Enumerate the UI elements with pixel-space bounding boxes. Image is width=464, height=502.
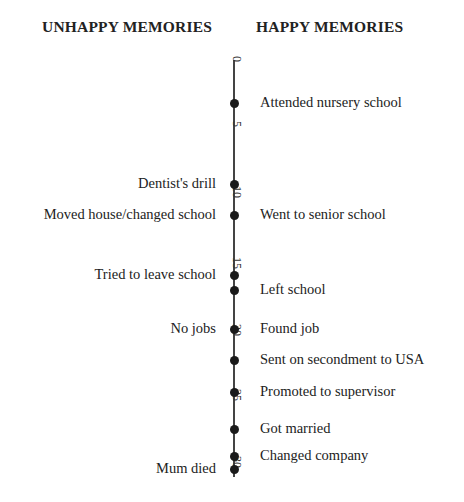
- happy-memory-label: Found job: [260, 320, 319, 336]
- unhappy-memory-label: Moved house/changed school: [44, 206, 216, 222]
- event-marker-dot: [230, 452, 239, 461]
- event-marker-dot: [230, 388, 239, 397]
- event-marker-dot: [230, 356, 239, 365]
- event-marker-dot: [230, 211, 239, 220]
- unhappy-memory-label: Mum died: [156, 460, 216, 476]
- happy-memory-label: Promoted to supervisor: [260, 383, 395, 399]
- happy-memories-heading: HAPPY MEMORIES: [256, 18, 403, 36]
- happy-memory-label: Went to senior school: [260, 206, 386, 222]
- event-marker-dot: [230, 99, 239, 108]
- happy-memory-label: Changed company: [260, 447, 368, 463]
- unhappy-memory-label: No jobs: [170, 320, 216, 336]
- unhappy-memory-label: Dentist's drill: [138, 175, 216, 191]
- age-tick-label: 15: [229, 257, 244, 269]
- unhappy-memories-heading: UNHAPPY MEMORIES: [42, 18, 212, 36]
- event-marker-dot: [230, 180, 239, 189]
- happy-memory-label: Attended nursery school: [260, 94, 402, 110]
- age-tick-label: 5: [229, 121, 244, 127]
- happy-memory-label: Got married: [260, 420, 330, 436]
- unhappy-memory-label: Tried to leave school: [95, 266, 217, 282]
- happy-memory-label: Left school: [260, 281, 326, 297]
- event-marker-dot: [230, 271, 239, 280]
- age-tick-label: 0: [229, 56, 244, 62]
- event-marker-dot: [230, 325, 239, 334]
- event-marker-dot: [230, 425, 239, 434]
- happy-memory-label: Sent on secondment to USA: [260, 351, 424, 367]
- event-marker-dot: [230, 286, 239, 295]
- event-marker-dot: [230, 465, 239, 474]
